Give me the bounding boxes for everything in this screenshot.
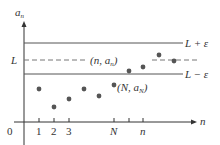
x-axis-label: n (200, 115, 206, 127)
y-axis-label: an (15, 6, 25, 20)
point-N (112, 83, 117, 88)
point-N-annotation: (N, aN) (117, 81, 148, 95)
limit-label: L (10, 54, 17, 66)
sequence-convergence-diagram: an n 0 L + ε L L − ε (n, an) (N, aN) 1 2… (0, 0, 220, 145)
lower-bound-label: L − ε (184, 68, 209, 80)
x-ticks (39, 118, 143, 122)
tick-label-2: 2 (51, 125, 57, 137)
tick-label-1: 1 (36, 125, 42, 137)
tick-label-3: 3 (66, 125, 72, 137)
y-axis-arrow-icon (22, 21, 27, 27)
upper-bound-label: L + ε (184, 37, 209, 49)
x-axis-arrow-icon (191, 120, 197, 125)
tick-label-n: n (140, 125, 146, 137)
point-n-annotation: (n, an) (90, 54, 118, 68)
origin-label: 0 (7, 125, 13, 137)
tick-label-N: N (109, 125, 118, 137)
